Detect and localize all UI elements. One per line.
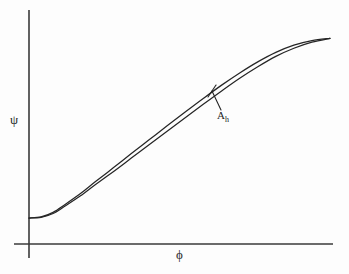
- annotation-symbol: A: [217, 109, 225, 121]
- annotation-label-ah: Ah: [217, 110, 229, 124]
- annotation-leader-line: [212, 91, 221, 110]
- curve-upper-branch: [29, 38, 330, 218]
- y-axis-label: ψ: [10, 113, 18, 126]
- figure-canvas: [0, 0, 349, 274]
- x-axis-label: ϕ: [176, 248, 183, 261]
- figure-container: ψ ϕ Ah: [0, 0, 349, 274]
- annotation-subscript: h: [225, 115, 229, 124]
- curve-lower-branch: [29, 38, 330, 218]
